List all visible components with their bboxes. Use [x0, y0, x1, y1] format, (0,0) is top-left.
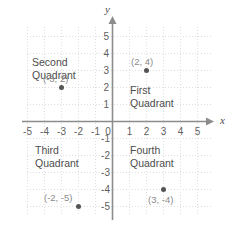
y-tick-neg5: -5 — [96, 201, 110, 212]
quadrant-label-third-line2: Quadrant — [35, 157, 79, 170]
x-tick-neg5: -5 — [21, 126, 34, 137]
x-tick-neg4: -4 — [38, 126, 51, 137]
x-tick-pos4: 4 — [175, 126, 186, 137]
y-tick-pos2: 2 — [99, 82, 109, 93]
x-axis-name: x — [220, 115, 225, 126]
quadrant-label-first: First Quadrant — [130, 84, 174, 109]
quadrant-label-third: Third Quadrant — [35, 144, 79, 169]
y-axis-name: y — [105, 4, 110, 15]
x-axis-arrowhead — [206, 118, 214, 126]
x-tick-neg3: -3 — [55, 126, 68, 137]
quadrant-label-first-line1: First — [130, 84, 174, 97]
data-point-label-2-4: (2, 4) — [131, 56, 153, 67]
y-tick-pos4: 4 — [99, 48, 109, 59]
y-tick-neg2: -2 — [96, 150, 110, 161]
x-tick-pos1: 1 — [124, 126, 135, 137]
y-tick-neg1: -1 — [96, 133, 110, 144]
y-tick-pos3: 3 — [99, 65, 109, 76]
x-tick-neg2: -2 — [72, 126, 85, 137]
quadrant-label-second-line1: Second — [32, 56, 76, 69]
y-axis-arrowhead — [109, 16, 117, 24]
data-point-neg3-2 — [59, 85, 64, 90]
data-point-label-neg3-2: (-3, 2) — [43, 73, 68, 84]
quadrant-label-fourth-line2: Quadrant — [130, 157, 174, 170]
y-tick-neg4: -4 — [96, 184, 110, 195]
quadrant-label-third-line1: Third — [35, 144, 79, 157]
x-tick-pos5: 5 — [192, 126, 203, 137]
quadrant-label-fourth: Fourth Quadrant — [130, 144, 174, 169]
plot-canvas — [0, 0, 234, 231]
data-point-neg2-neg5 — [76, 204, 81, 209]
data-point-label-3-neg4: (3, -4) — [148, 194, 173, 205]
data-point-3-neg4 — [161, 187, 166, 192]
data-point-2-4 — [144, 68, 149, 73]
x-tick-pos3: 3 — [158, 126, 169, 137]
quadrant-label-fourth-line1: Fourth — [130, 144, 174, 157]
y-tick-pos5: 5 — [99, 31, 109, 42]
y-tick-pos1: 1 — [99, 99, 109, 110]
data-point-label-neg2-neg5: (-2, -5) — [44, 192, 73, 203]
coordinate-plane-figure: y x -5 -4 -3 -2 -1 0 1 2 3 4 5 5 4 3 2 1… — [0, 0, 234, 231]
x-tick-pos2: 2 — [141, 126, 152, 137]
quadrant-label-first-line2: Quadrant — [130, 97, 174, 110]
y-tick-neg3: -3 — [96, 167, 110, 178]
